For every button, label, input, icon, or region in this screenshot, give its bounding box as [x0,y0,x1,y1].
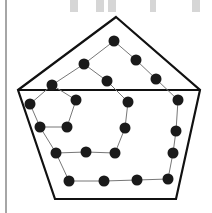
dot-n4 [131,55,142,66]
dot-n9 [123,97,134,108]
dot-n3 [47,80,58,91]
dot-n16 [81,147,92,158]
dot-n14 [171,126,182,137]
dot-n13 [120,123,131,134]
dot-n1 [109,36,120,47]
dot-n21 [132,175,143,186]
dot-n12 [62,122,73,133]
dot-n7 [25,99,36,110]
dots [25,36,184,187]
pentagon-diagram [0,0,212,213]
dot-n22 [163,174,174,185]
connector-line [84,41,114,64]
dot-n8 [71,95,82,106]
dot-n6 [151,74,162,85]
dot-n2 [79,59,90,70]
connection-paths [30,41,178,181]
dot-n10 [173,95,184,106]
dot-n19 [64,176,75,187]
dot-n11 [35,122,46,133]
dot-n17 [110,148,121,159]
dot-n5 [102,76,113,87]
dot-n20 [99,176,110,187]
dot-n18 [168,148,179,159]
dot-n15 [51,148,62,159]
faded-header-text [70,0,200,12]
connector-line [52,64,84,85]
